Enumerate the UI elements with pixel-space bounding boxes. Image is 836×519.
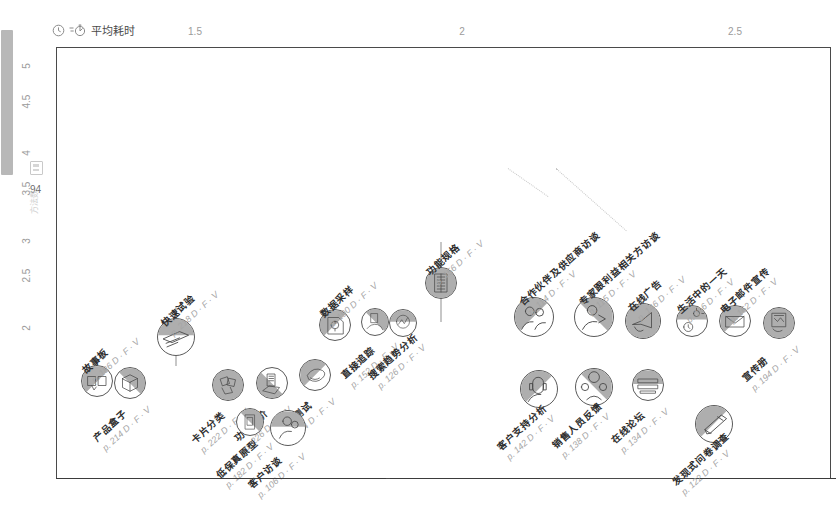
method-node[interactable]: 产品盒子p. 214 D · F · V	[114, 367, 146, 399]
method-node[interactable]: 数据采样p. 190 D · F · V	[319, 309, 351, 341]
method-node[interactable]: 生活中的一天p. 116 D · F · V	[676, 305, 708, 337]
method-node[interactable]: 专家跟利益相关方访谈p. 115 D · F · V	[574, 297, 614, 337]
method-node[interactable]: 卡片分类p. 222 D · F · V	[212, 369, 244, 401]
competitor-test-icon[interactable]	[299, 359, 331, 391]
customer-interview-icon[interactable]	[270, 410, 306, 446]
method-node[interactable]: 客户访谈p. 106 D · F · V	[270, 410, 306, 446]
y-tick-2: 2	[21, 325, 32, 331]
method-node[interactable]: 竞品测试p. 204 D · F · V	[299, 359, 331, 391]
method-node[interactable]: 电子邮件宣传p. 162 D · F · V	[719, 305, 751, 337]
method-node[interactable]: 故事板p. 186 D · F · V	[81, 365, 113, 397]
card-count-icon	[30, 161, 43, 175]
baseline-segment	[390, 478, 540, 479]
method-node[interactable]: 宣传册p. 194 D · F · V	[763, 307, 795, 339]
y-tick-4: 4	[21, 150, 32, 156]
online-ad-icon[interactable]	[625, 303, 661, 339]
direct-tracking-icon[interactable]	[361, 308, 389, 336]
brochure-icon[interactable]	[763, 307, 795, 339]
day-in-life-icon[interactable]	[676, 305, 708, 337]
stopwatch-icon	[69, 23, 87, 37]
method-node[interactable]: 发现式问卷调查p. 122 D · F · V	[695, 405, 733, 443]
x-axis-title: 平均耗时	[52, 22, 135, 38]
method-node[interactable]: 在线论坛p. 134 D · F · V	[632, 369, 664, 401]
feature-pricing-icon[interactable]	[256, 367, 288, 399]
email-campaign-icon[interactable]	[719, 305, 751, 337]
spec-sheet-icon[interactable]	[425, 267, 457, 299]
y-tick-2.5: 2.5	[21, 269, 32, 283]
baseline-segment	[56, 478, 386, 479]
discovery-survey-icon[interactable]	[695, 405, 733, 443]
y-tick-5: 5	[21, 63, 32, 69]
method-node[interactable]: 销售人员反馈p. 138 D · F · V	[575, 368, 613, 406]
y-tick-3.5: 3.5	[21, 182, 32, 196]
x-tick-1.5: 1.5	[188, 26, 202, 37]
scrollbar-track[interactable]	[0, 0, 14, 519]
y-tick-3: 3	[21, 238, 32, 244]
clock-icon	[52, 24, 65, 37]
support-analysis-icon[interactable]	[520, 370, 558, 408]
method-node[interactable]: 低保真原型p. 182 D · F · V	[236, 408, 264, 436]
x-tick-2.5: 2.5	[728, 26, 742, 37]
product-box-icon[interactable]	[114, 367, 146, 399]
storyboard-icon[interactable]	[81, 365, 113, 397]
method-node[interactable]: 功能规格p. 156 D · F · V	[425, 267, 457, 299]
data-sampling-icon[interactable]	[319, 309, 351, 341]
x-axis-title-label: 平均耗时	[91, 22, 135, 38]
baseline-segment	[700, 478, 836, 479]
search-trend-icon[interactable]	[389, 309, 417, 337]
lofi-prototype-icon[interactable]	[236, 408, 264, 436]
method-node[interactable]: 搜索趋势分析p. 126 D · F · V	[389, 309, 417, 337]
y-tick-4.5: 4.5	[21, 95, 32, 109]
x-tick-2: 2	[459, 26, 465, 37]
method-node[interactable]: 直接追踪p. 152 D · F · V	[361, 308, 389, 336]
scrollbar-thumb[interactable]	[1, 30, 13, 175]
quick-experiment-icon[interactable]	[157, 318, 195, 356]
method-node[interactable]: 在线广告p. 146 D · F · V	[625, 303, 661, 339]
online-forum-icon[interactable]	[632, 369, 664, 401]
expert-interview-icon[interactable]	[574, 297, 614, 337]
method-node[interactable]: 客户支持分析p. 142 D · F · V	[520, 370, 558, 408]
method-node[interactable]: 快速试验p. 218 D · F · V	[157, 318, 195, 356]
method-node[interactable]: 功能定价p. 226 D · F · V	[256, 367, 288, 399]
card-sorting-icon[interactable]	[212, 369, 244, 401]
sales-feedback-icon[interactable]	[575, 368, 613, 406]
method-node[interactable]: 合作伙伴及供应商访谈p. 114 D · F · V	[514, 297, 554, 337]
partner-interview-icon[interactable]	[514, 297, 554, 337]
